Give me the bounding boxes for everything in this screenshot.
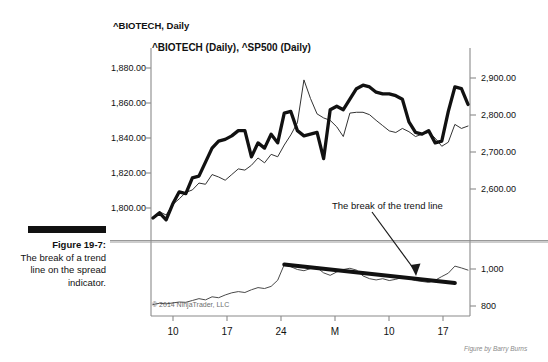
chart-plot-area xyxy=(0,0,548,362)
y-axis-left-ticks xyxy=(146,68,151,208)
annotation-arrow xyxy=(372,212,421,276)
y-axis-right-ticks xyxy=(470,78,476,189)
sp500-series-line xyxy=(153,80,468,218)
figure-root: Figure 19-7: The break of a trend line o… xyxy=(0,0,548,362)
x-axis-ticks xyxy=(173,316,443,321)
biotech-series-line xyxy=(153,85,468,220)
trend-line xyxy=(284,265,455,283)
y-axis-right-ticks-spread xyxy=(470,269,476,306)
spread-series-line xyxy=(153,265,468,305)
